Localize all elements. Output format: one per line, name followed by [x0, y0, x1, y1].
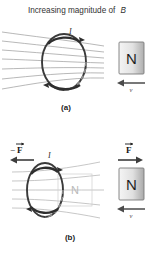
panel-b-force-left-prefix: − — [10, 145, 15, 155]
panel-b-current-label: I — [47, 151, 51, 160]
panel-b-caption: (b) — [65, 233, 76, 242]
panel-a-caption: (a) — [61, 103, 71, 112]
panel-a-current-arrowhead-top — [79, 37, 85, 42]
panel-b-force-left: − F — [10, 143, 34, 164]
lenz-law-diagram: Increasing magnitude of B — [0, 0, 154, 260]
panel-b-ghost-magnet-pole-label: N — [71, 184, 79, 196]
panel-b-current-arrowhead-bottom — [26, 207, 32, 212]
panel-b-force-left-vector-arrowhead — [22, 143, 25, 146]
panel-b-force-left-arrowhead — [10, 157, 17, 164]
panel-b: N I − F F — [10, 143, 145, 243]
panel-b-magnet-pole-label: N — [126, 176, 137, 193]
panel-b-force-right: F — [118, 143, 143, 164]
panel-a-current-label: I — [68, 27, 72, 36]
panel-b-force-right-vector-arrowhead — [131, 143, 134, 146]
panel-b-force-right-label: F — [126, 145, 132, 155]
panel-b-velocity-label: v — [130, 212, 133, 219]
panel-a-velocity-label: v — [130, 86, 133, 93]
figure-title-symbol: B — [121, 6, 127, 15]
panel-a-current-arrowhead-bottom — [43, 83, 49, 88]
figure-title-words: Increasing magnitude of — [28, 6, 116, 15]
panel-b-current-arrowhead-top — [57, 167, 63, 172]
physics-figure: Increasing magnitude of B — [0, 0, 154, 260]
panel-b-force-right-arrowhead — [136, 157, 143, 164]
panel-a-magnet-pole-label: N — [126, 50, 137, 67]
panel-a: I N v (a) — [2, 27, 145, 112]
panel-b-force-left-label: F — [17, 145, 23, 155]
figure-title: Increasing magnitude of B — [28, 6, 127, 15]
